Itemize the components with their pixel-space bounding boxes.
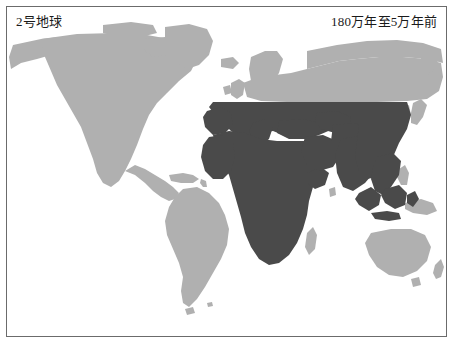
world-map	[7, 7, 447, 337]
figure-root: 2号地球 180万年至5万年前	[0, 0, 454, 344]
figure-frame: 2号地球 180万年至5万年前	[6, 6, 447, 337]
world-map-svg	[7, 7, 447, 337]
